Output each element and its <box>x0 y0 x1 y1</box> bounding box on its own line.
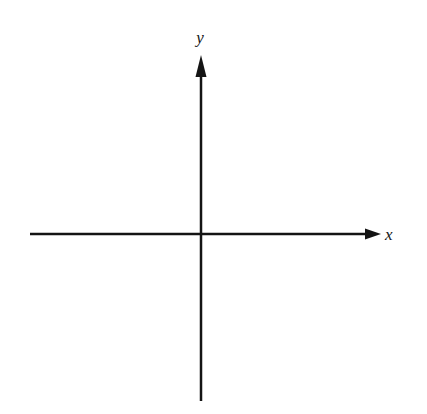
y-axis-label: y <box>192 29 208 46</box>
figure-background <box>0 0 427 414</box>
coordinate-axes-figure: y x <box>0 0 427 414</box>
axes-drawing <box>0 0 427 414</box>
x-axis-label: x <box>385 226 401 243</box>
